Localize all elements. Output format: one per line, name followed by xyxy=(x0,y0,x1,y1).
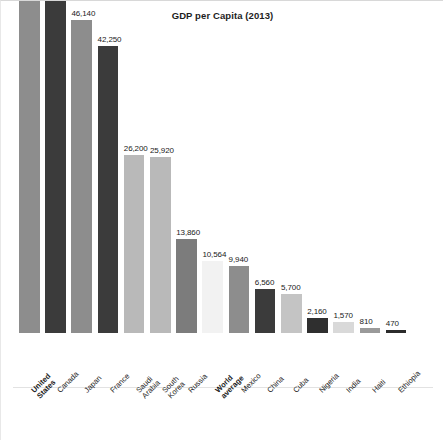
bar xyxy=(333,322,354,333)
bar-value-label: 25,920 xyxy=(150,146,174,155)
bar xyxy=(71,20,92,333)
bar-value-label: 810 xyxy=(360,317,373,326)
bar xyxy=(202,261,223,333)
bar-value-label: 9,940 xyxy=(229,255,249,264)
bar-column: 470 xyxy=(386,330,407,333)
bar xyxy=(150,157,171,333)
bar-column: 6,560 xyxy=(255,289,276,333)
bar-column: 2,160 xyxy=(307,318,328,333)
bar-value-label: 46,140 xyxy=(71,9,95,18)
bar-column: 13,860 xyxy=(176,239,197,333)
bar-value-label: 6,560 xyxy=(255,278,275,287)
bar-column: 53,670 xyxy=(19,0,40,333)
bar-column: 42,250 xyxy=(98,46,119,333)
bar-value-label: 42,250 xyxy=(98,35,122,44)
bar-value-label: 1,570 xyxy=(333,311,353,320)
bar-column: 1,570 xyxy=(333,322,354,333)
bar xyxy=(360,328,381,333)
bar xyxy=(19,0,40,333)
bar-column: 9,940 xyxy=(229,266,250,333)
bar-value-label: 13,860 xyxy=(176,228,200,237)
bar-value-label: 10,564 xyxy=(202,250,226,259)
bar-column: 10,564 xyxy=(202,261,223,333)
bar-column: 25,920 xyxy=(150,157,171,333)
bar-value-label: 5,700 xyxy=(281,283,301,292)
bar-column: 46,140 xyxy=(71,20,92,333)
bar xyxy=(281,294,302,333)
gdp-per-capita-bar-chart: GDP per Capita (2013) 53,67052,20046,140… xyxy=(0,0,443,440)
bar xyxy=(229,266,250,333)
bar-column: 26,200 xyxy=(124,155,145,333)
bar xyxy=(176,239,197,333)
bar-column: 52,200 xyxy=(45,0,66,333)
bar-value-label: 470 xyxy=(386,319,399,328)
bar-column: 810 xyxy=(360,328,381,333)
bar xyxy=(124,155,145,333)
bar-column: 5,700 xyxy=(281,294,302,333)
plot-area: 53,67052,20046,14042,25026,20025,92013,8… xyxy=(1,1,443,387)
bar-value-label: 26,200 xyxy=(124,144,148,153)
bar xyxy=(386,330,407,333)
bar-value-label: 2,160 xyxy=(307,307,327,316)
bar xyxy=(307,318,328,333)
bar xyxy=(255,289,276,333)
bar xyxy=(45,0,66,333)
bar xyxy=(98,46,119,333)
